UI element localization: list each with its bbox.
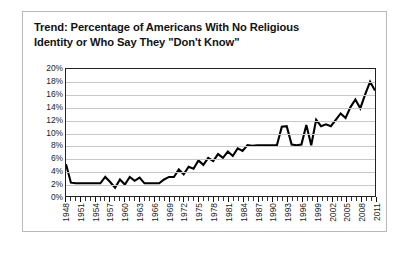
series-line [66, 69, 375, 196]
x-tick-label: 2011 [372, 203, 382, 221]
x-tick [287, 197, 288, 202]
x-tick [85, 197, 86, 201]
x-tick [341, 197, 342, 201]
x-tick [104, 197, 105, 201]
x-tick [292, 197, 293, 201]
x-tick-label: 1951 [76, 203, 86, 222]
x-tick-label: 1975 [194, 203, 204, 222]
x-tick [149, 197, 150, 201]
x-axis-labels: 1948195119541957196019631966196919721975… [65, 203, 376, 243]
x-tick-label: 1963 [135, 203, 145, 222]
x-tick [179, 197, 180, 201]
x-tick [307, 197, 308, 201]
x-tick [248, 197, 249, 201]
gridline [66, 159, 375, 160]
x-tick [243, 197, 244, 202]
gridline [66, 82, 375, 83]
x-tick [213, 197, 214, 202]
x-tick [114, 197, 115, 201]
x-tick [70, 197, 71, 201]
x-tick [371, 197, 372, 201]
y-tick-label: 2% [29, 179, 63, 189]
x-tick [193, 197, 194, 201]
x-tick [302, 197, 303, 202]
x-tick [277, 197, 278, 201]
y-tick-label: 8% [29, 140, 63, 150]
x-tick-label: 1996 [298, 203, 308, 222]
x-tick [95, 197, 96, 202]
x-tick-label: 2005 [342, 203, 352, 222]
x-tick [253, 197, 254, 201]
gridline [66, 108, 375, 109]
x-tick [356, 197, 357, 201]
y-axis: 0%2%4%6%8%10%12%14%16%18%20% [25, 68, 63, 197]
x-tick [80, 197, 81, 202]
x-tick [109, 197, 110, 202]
x-tick [272, 197, 273, 202]
x-tick-label: 1987 [254, 203, 264, 222]
x-tick [90, 197, 91, 201]
x-tick [139, 197, 140, 202]
gridline [66, 172, 375, 173]
x-tick [119, 197, 120, 201]
x-tick-label: 1969 [165, 203, 175, 222]
gridline [66, 95, 375, 96]
x-tick [198, 197, 199, 202]
x-tick [376, 197, 377, 202]
x-tick [174, 197, 175, 201]
x-tick [203, 197, 204, 201]
x-tick-label: 1948 [61, 203, 71, 222]
x-tick [267, 197, 268, 201]
x-tick [65, 197, 66, 202]
x-tick [327, 197, 328, 201]
y-tick-label: 12% [29, 115, 63, 125]
chart-title-line-1: Trend: Percentage of Americans With No R… [34, 21, 299, 33]
x-tick-label: 1954 [91, 203, 101, 222]
x-tick [262, 197, 263, 201]
x-tick [346, 197, 347, 202]
y-tick-label: 10% [29, 128, 63, 138]
x-tick [124, 197, 125, 202]
y-tick-label: 16% [29, 89, 63, 99]
x-tick [332, 197, 333, 202]
chart-title: Trend: Percentage of Americans With No R… [34, 20, 334, 49]
x-tick [322, 197, 323, 201]
chart-title-line-2: Identity or Who Say They "Don't Know" [34, 36, 239, 48]
x-tick [144, 197, 145, 201]
x-tick [134, 197, 135, 201]
x-tick [223, 197, 224, 201]
x-tick [159, 197, 160, 201]
x-tick [208, 197, 209, 201]
x-tick [297, 197, 298, 201]
x-tick-label: 1966 [150, 203, 160, 222]
x-tick [233, 197, 234, 201]
x-tick [169, 197, 170, 202]
x-tick [218, 197, 219, 201]
x-tick-label: 1957 [105, 203, 115, 222]
y-tick-label: 4% [29, 166, 63, 176]
y-tick-label: 0% [29, 192, 63, 202]
x-tick-label: 1993 [283, 203, 293, 222]
x-tick [228, 197, 229, 202]
x-tick [317, 197, 318, 202]
x-tick-label: 1978 [209, 203, 219, 222]
x-tick [312, 197, 313, 201]
chart-figure: Trend: Percentage of Americans With No R… [22, 11, 387, 232]
x-tick-label: 1960 [120, 203, 130, 222]
y-tick-label: 20% [29, 63, 63, 73]
x-tick [258, 197, 259, 202]
x-tick-label: 2002 [328, 203, 338, 222]
x-axis-ticks [65, 197, 376, 202]
x-tick [164, 197, 165, 201]
plot-area [65, 68, 376, 197]
x-tick [75, 197, 76, 201]
x-tick [351, 197, 352, 201]
x-tick-label: 1981 [224, 203, 234, 222]
x-tick [366, 197, 367, 201]
x-tick [154, 197, 155, 202]
gridline [66, 121, 375, 122]
x-tick [361, 197, 362, 202]
x-tick-label: 1999 [313, 203, 323, 222]
gridline [66, 134, 375, 135]
y-tick-label: 14% [29, 102, 63, 112]
